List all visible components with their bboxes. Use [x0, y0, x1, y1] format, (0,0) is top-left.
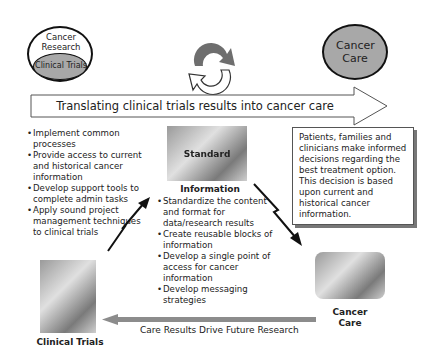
- bullet-item: Develop messaging strategies: [157, 284, 275, 306]
- clinical-trials-inner-ellipse: Clinical Trials: [33, 53, 87, 80]
- patients-info-text: Patients, families and clinicians make i…: [299, 132, 406, 219]
- cancer-care-caption: Cancer Care: [320, 307, 380, 329]
- cancer-care-label: Cancer Care: [336, 39, 374, 65]
- bullet-item: Provide access to current and historical…: [27, 150, 147, 183]
- clinical-trials-photo: [40, 260, 96, 333]
- information-title: Information: [170, 184, 250, 194]
- standard-information-photo: Standard: [167, 126, 247, 181]
- main-arrow-label: Translating clinical trials results into…: [40, 99, 350, 113]
- patients-info-box: Patients, families and clinicians make i…: [292, 127, 414, 225]
- clinical-trials-caption: Clinical Trials: [25, 337, 115, 347]
- lightning-arrow-down-icon: [250, 180, 310, 250]
- bullet-item: Develop a single point of access for can…: [157, 251, 275, 284]
- cancer-research-label: Cancer Research: [39, 32, 83, 52]
- feedback-arrow-label: Care Results Drive Future Research: [140, 325, 310, 335]
- cancer-care-ellipse: Cancer Care: [322, 24, 388, 80]
- cancer-care-caption-line1: Cancer: [320, 307, 380, 318]
- cancer-research-ellipse: Cancer Research Clinical Trials: [27, 26, 93, 82]
- cancer-care-caption-line2: Care: [320, 318, 380, 329]
- clinical-trials-inner-label: Clinical Trials: [34, 61, 88, 70]
- cancer-care-photo: [315, 252, 385, 299]
- bullet-item: Implement common processes: [27, 128, 147, 150]
- standard-overlay-label: Standard: [167, 149, 247, 159]
- lightning-arrow-up-icon: [100, 195, 160, 255]
